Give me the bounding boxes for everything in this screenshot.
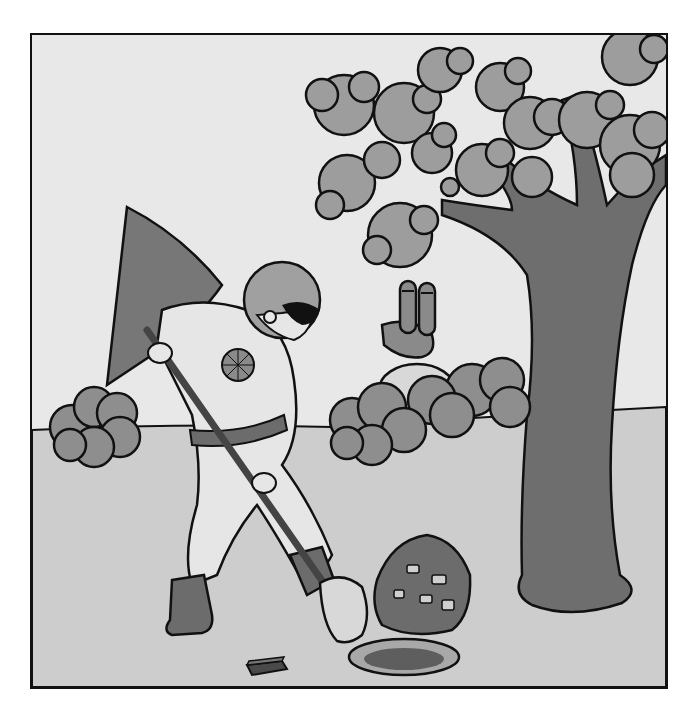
hole xyxy=(364,648,444,670)
boot-left xyxy=(166,575,212,635)
caption xyxy=(0,706,694,718)
illustration-frame xyxy=(30,33,668,689)
illustration xyxy=(32,35,666,687)
hand-upper xyxy=(148,343,172,363)
ear xyxy=(264,311,276,323)
hand-lower xyxy=(252,473,276,493)
chest-emblem xyxy=(222,349,254,381)
